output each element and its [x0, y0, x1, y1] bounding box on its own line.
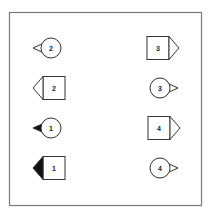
- symbol-label: 4: [157, 125, 161, 132]
- symbol-square-left-2: 2: [33, 77, 65, 100]
- symbol-circle-right-2: 3: [150, 78, 178, 98]
- symbol-square-right-1: 3: [147, 37, 179, 60]
- symbol-label: 1: [52, 165, 56, 172]
- symbol-label: 2: [52, 85, 56, 92]
- symbol-circle-left-1: 2: [33, 38, 61, 58]
- symbol-circle-right-4: 4: [150, 158, 178, 178]
- filled-pointer-left-icon: [33, 157, 43, 180]
- symbol-square-right-3: 4: [148, 117, 180, 140]
- pointer-right-icon: [169, 37, 179, 60]
- symbol-label: 4: [158, 165, 162, 172]
- symbol-label: 3: [158, 85, 162, 92]
- symbol-label: 2: [49, 45, 53, 52]
- pointer-left-icon: [33, 77, 43, 100]
- symbol-group: 22113344: [33, 37, 180, 180]
- symbol-square-left-4: 1: [33, 157, 65, 180]
- symbol-label: 3: [156, 45, 160, 52]
- symbol-diagram: 22113344: [0, 0, 209, 212]
- symbol-circle-left-3: 1: [33, 118, 61, 138]
- symbol-label: 1: [49, 125, 53, 132]
- pointer-right-icon: [170, 117, 180, 140]
